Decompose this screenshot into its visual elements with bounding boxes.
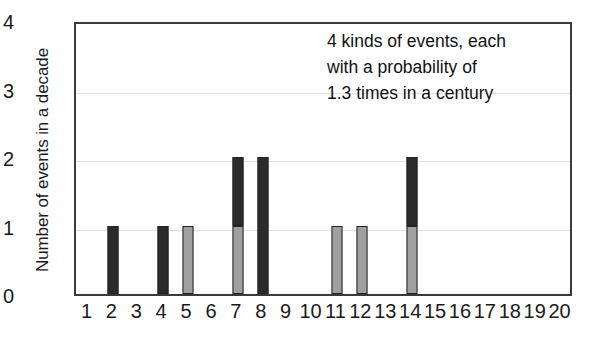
bar xyxy=(357,226,368,295)
bar-segment xyxy=(407,226,418,295)
y-tick-label: 2 xyxy=(0,148,14,171)
chart-annotation: 4 kinds of events, eachwith a probabilit… xyxy=(327,28,506,106)
y-tick-label: 4 xyxy=(0,11,14,34)
bar-segment xyxy=(183,226,194,295)
gridline xyxy=(76,230,570,231)
bar xyxy=(332,226,343,295)
bar-segment xyxy=(232,226,243,295)
bar-segment xyxy=(407,157,418,226)
bar xyxy=(183,226,194,295)
y-tick-label: 0 xyxy=(0,285,14,308)
bar xyxy=(257,157,268,294)
annotation-line: with a probability of xyxy=(327,54,506,80)
y-tick-label: 3 xyxy=(0,79,14,102)
bar-segment xyxy=(257,157,268,294)
bar xyxy=(232,157,243,294)
x-tick-label: 20 xyxy=(540,300,580,323)
bar xyxy=(407,157,418,294)
y-tick-label: 1 xyxy=(0,216,14,239)
bar-segment xyxy=(357,226,368,295)
bar-segment xyxy=(108,226,119,295)
annotation-line: 4 kinds of events, each xyxy=(327,28,506,54)
bar-segment xyxy=(332,226,343,295)
annotation-line: 1.3 times in a century xyxy=(327,80,506,106)
bar xyxy=(158,226,169,295)
y-axis-title: Number of events in a decade xyxy=(33,10,53,310)
bar-segment xyxy=(232,157,243,226)
bar xyxy=(108,226,119,295)
bar-segment xyxy=(158,226,169,295)
gridline xyxy=(76,161,570,162)
bar-chart: Number of events in a decade 01234 12345… xyxy=(0,0,595,341)
